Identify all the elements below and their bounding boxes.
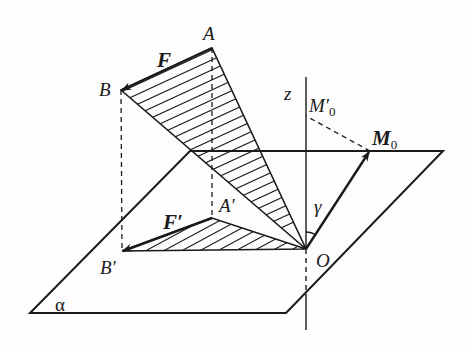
projection-B-B' xyxy=(121,90,122,251)
diagram-canvas: A F B z M′0 M0 A′ F′ γ B′ O α xyxy=(0,0,471,346)
label-gamma: γ xyxy=(314,197,322,216)
label-M0: M0 xyxy=(372,128,397,151)
label-F-prime: F′ xyxy=(163,212,183,233)
label-A: A xyxy=(203,24,215,43)
label-B: B xyxy=(99,80,111,99)
label-M0-prime: M′0 xyxy=(309,96,335,118)
label-F: F xyxy=(157,50,171,71)
triangle-OA'B' xyxy=(122,218,306,251)
label-M0-sub: 0 xyxy=(391,137,398,152)
label-M0-prime-sub: 0 xyxy=(329,104,336,119)
label-B-prime: B′ xyxy=(100,258,116,277)
label-alpha: α xyxy=(55,295,65,314)
label-z: z xyxy=(284,84,291,103)
plane-alpha xyxy=(30,151,443,313)
angle-gamma-arc xyxy=(306,232,316,235)
hatch-triangle-OA'B' xyxy=(110,200,402,270)
geometry-figure xyxy=(0,0,471,346)
label-O: O xyxy=(316,251,330,270)
label-M0-prime-text: M′ xyxy=(309,95,329,116)
label-M0-text: M xyxy=(372,126,391,150)
label-A-prime: A′ xyxy=(219,196,235,215)
projection-M0-M0' xyxy=(306,116,370,151)
hatch-triangle-OAB xyxy=(60,0,320,330)
